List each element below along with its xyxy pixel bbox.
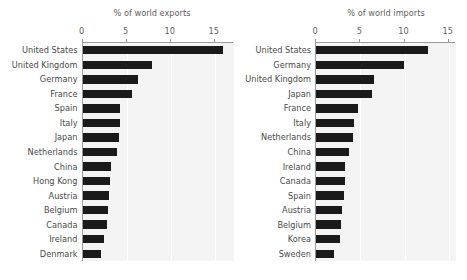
bar — [83, 177, 110, 185]
x-tick-label-5: 5 — [123, 26, 128, 36]
bar — [316, 133, 353, 141]
x-tick-label-0: 0 — [312, 26, 317, 36]
bar — [83, 191, 109, 199]
category-label: Hong Kong — [33, 176, 78, 186]
category-label: Italy — [293, 118, 311, 128]
x-tick-10 — [170, 39, 171, 42]
category-label: France — [284, 103, 311, 113]
category-label: France — [50, 89, 77, 99]
bar — [316, 90, 372, 98]
category-label: Netherlands — [28, 147, 78, 157]
x-tick-15 — [214, 39, 215, 42]
bar — [316, 162, 345, 170]
x-axis-line-imports — [315, 42, 455, 43]
bar — [316, 177, 345, 185]
two-panel-bar-chart-figure: % of world exports051015United StatesUni… — [0, 0, 467, 280]
bar — [83, 250, 102, 258]
plot-area-exports — [82, 43, 235, 261]
category-label: Austria — [282, 205, 311, 215]
x-tick-0 — [315, 39, 316, 42]
category-label: Korea — [288, 234, 311, 244]
chart-title-exports: % of world exports — [114, 8, 191, 18]
category-label: Germany — [273, 60, 311, 70]
bar — [316, 220, 341, 228]
bar — [316, 75, 374, 83]
x-tick-0 — [82, 39, 83, 42]
category-label: United States — [22, 45, 77, 55]
bar — [316, 250, 334, 258]
bar — [316, 61, 404, 69]
x-tick-label-10: 10 — [398, 26, 408, 36]
bar — [83, 104, 121, 112]
category-label: Spain — [288, 191, 311, 201]
category-label: Germany — [40, 74, 78, 84]
x-tick-15 — [448, 39, 449, 42]
category-label: Belgium — [44, 205, 78, 215]
bar — [83, 61, 153, 69]
category-label: Ireland — [49, 234, 77, 244]
category-label: Denmark — [40, 249, 78, 259]
bar — [83, 148, 117, 156]
category-label: Spain — [55, 103, 78, 113]
category-label: Belgium — [277, 220, 311, 230]
category-label: Canada — [46, 220, 77, 230]
gridline-15 — [449, 43, 450, 261]
category-label: Sweden — [279, 249, 311, 259]
x-tick-label-5: 5 — [357, 26, 362, 36]
bar — [316, 104, 358, 112]
category-label: Ireland — [283, 162, 311, 172]
bar — [83, 119, 120, 127]
bar — [316, 191, 344, 199]
chart-title-imports: % of world imports — [347, 8, 424, 18]
bar — [83, 162, 111, 170]
category-label: United Kingdom — [245, 74, 311, 84]
category-label: Italy — [60, 118, 78, 128]
bar — [83, 90, 132, 98]
x-tick-label-0: 0 — [79, 26, 84, 36]
bar — [316, 148, 349, 156]
category-label: Netherlands — [261, 132, 311, 142]
category-label: Japan — [55, 132, 78, 142]
x-tick-10 — [404, 39, 405, 42]
bar — [83, 75, 139, 83]
bar — [316, 206, 342, 214]
plot-area-imports — [315, 43, 456, 261]
bar — [83, 206, 109, 214]
bar — [316, 46, 428, 54]
x-tick-label-10: 10 — [164, 26, 174, 36]
category-label: Japan — [288, 89, 311, 99]
category-label: United States — [256, 45, 311, 55]
x-axis-line-exports — [82, 42, 234, 43]
bar — [83, 46, 223, 54]
x-tick-5 — [359, 39, 360, 42]
category-label: China — [288, 147, 311, 157]
bar — [83, 235, 104, 243]
bar — [316, 119, 354, 127]
gridline-15 — [215, 43, 216, 261]
category-label: Canada — [280, 176, 311, 186]
category-label: China — [54, 162, 77, 172]
category-label: United Kingdom — [12, 60, 78, 70]
bar — [83, 220, 108, 228]
gridline-10 — [171, 43, 172, 261]
x-tick-label-15: 15 — [443, 26, 453, 36]
x-tick-5 — [126, 39, 127, 42]
category-label: Austria — [49, 191, 78, 201]
chart-panel-imports: % of world imports051015United StatesGer… — [234, 0, 467, 280]
x-tick-label-15: 15 — [209, 26, 219, 36]
bar — [316, 235, 340, 243]
bar — [83, 133, 119, 141]
gridline-10 — [405, 43, 406, 261]
chart-panel-exports: % of world exports051015United StatesUni… — [0, 0, 234, 280]
